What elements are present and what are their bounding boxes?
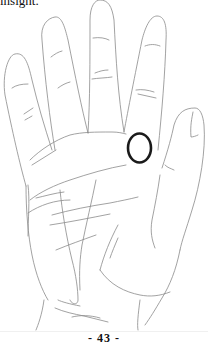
palm-right-edge (145, 250, 180, 325)
index-finger-outline (124, 16, 166, 150)
highlight-circle-marker (128, 134, 151, 163)
life-line (60, 190, 78, 304)
heart-line (30, 132, 126, 160)
head-line (30, 165, 126, 200)
middle-finger-outline (88, 0, 124, 133)
thumb-outline (162, 108, 204, 250)
page-number: - 43 - (0, 331, 208, 345)
palm-left-edge (26, 186, 48, 300)
